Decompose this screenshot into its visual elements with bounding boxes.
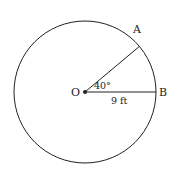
- label-b: B: [159, 86, 167, 99]
- circle-diagram: O A B 40° 9 ft: [0, 0, 180, 179]
- diagram-svg: O A B 40° 9 ft: [0, 0, 180, 179]
- label-a: A: [132, 23, 142, 36]
- center-point: [83, 90, 87, 94]
- radius-label: 9 ft: [111, 95, 128, 106]
- angle-label: 40°: [94, 80, 111, 91]
- label-o: O: [71, 86, 80, 99]
